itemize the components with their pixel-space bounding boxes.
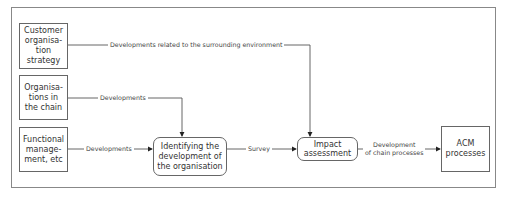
identifying-development-label: Identifying the development of the organ… bbox=[157, 142, 222, 172]
functional-management-label: Functional manage- ment, etc bbox=[23, 135, 64, 165]
edge-label-organisations-developments: Developments bbox=[98, 94, 148, 102]
identifying-development-box: Identifying the development of the organ… bbox=[153, 137, 227, 176]
edge-label-chain-processes: Development of chain processes bbox=[363, 141, 425, 157]
connector-lines bbox=[0, 0, 507, 199]
organisations-chain-label: Organisa- tions in the chain bbox=[24, 83, 63, 113]
impact-assessment-label: Impact assessment bbox=[304, 140, 351, 158]
edge-label-functional-developments: Developments bbox=[84, 145, 134, 153]
edge-label-surrounding-environment: Developments related to the surrounding … bbox=[108, 41, 284, 49]
impact-assessment-box: Impact assessment bbox=[297, 137, 358, 161]
acm-processes-box: ACM processes bbox=[441, 126, 490, 172]
organisations-chain-box: Organisa- tions in the chain bbox=[19, 75, 68, 120]
customer-strategy-box: Customer organisa- tion strategy bbox=[19, 23, 68, 69]
edge-label-survey: Survey bbox=[246, 145, 272, 153]
functional-management-box: Functional manage- ment, etc bbox=[19, 127, 68, 172]
customer-strategy-label: Customer organisa- tion strategy bbox=[24, 26, 63, 66]
acm-processes-label: ACM processes bbox=[446, 139, 486, 159]
